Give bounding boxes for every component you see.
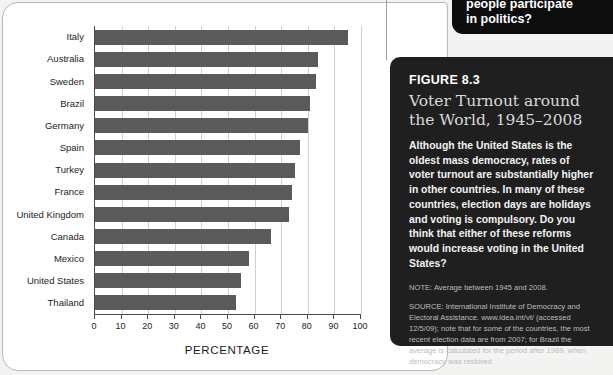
bar-series <box>95 26 361 314</box>
bar-row <box>95 292 361 314</box>
bar <box>95 96 310 111</box>
x-axis-tick-label: 40 <box>195 321 205 331</box>
x-axis-tick-label: 10 <box>116 321 126 331</box>
figure-note: NOTE: Average between 1945 and 2008. <box>409 282 596 293</box>
x-axis-tick-label: 80 <box>302 321 312 331</box>
top-callout-box: people participate in politics? <box>452 0 613 34</box>
bar-chart: ItalyAustraliaSwedenBrazilGermanySpainTu… <box>3 3 449 372</box>
page-background: ItalyAustraliaSwedenBrazilGermanySpainTu… <box>0 0 613 375</box>
y-axis-category-labels: ItalyAustraliaSwedenBrazilGermanySpainTu… <box>11 26 89 314</box>
figure-title: Voter Turnout around the World, 1945–200… <box>409 92 596 130</box>
bar-row <box>95 225 361 247</box>
bar <box>95 74 316 89</box>
bar <box>95 295 236 310</box>
bar-row <box>95 92 361 114</box>
bar-row <box>95 203 361 225</box>
x-axis-tick-label: 0 <box>91 321 96 331</box>
y-axis-label: Spain <box>11 137 89 159</box>
x-axis-tick-label: 30 <box>169 321 179 331</box>
bar-row <box>95 159 361 181</box>
x-axis-tick-label: 100 <box>352 321 367 331</box>
bar <box>95 251 249 266</box>
x-axis-tick <box>307 315 308 319</box>
bar <box>95 229 271 244</box>
x-axis-tick <box>94 315 95 319</box>
bar-row <box>95 115 361 137</box>
bar <box>95 207 289 222</box>
chart-card: ItalyAustraliaSwedenBrazilGermanySpainTu… <box>2 2 448 371</box>
figure-body-text: Although the United States is the oldest… <box>409 139 596 272</box>
x-axis-ticks: 0102030405060708090100 <box>94 315 360 320</box>
bar <box>95 140 300 155</box>
x-axis-tick <box>254 315 255 319</box>
x-axis-tick <box>200 315 201 319</box>
bar <box>95 52 318 67</box>
y-axis-label: France <box>11 181 89 203</box>
top-callout-line-2: in politics? <box>466 12 601 28</box>
bar-row <box>95 26 361 48</box>
figure-number: FIGURE 8.3 <box>409 73 596 87</box>
y-axis-label: Mexico <box>11 248 89 270</box>
x-axis-tick <box>121 315 122 319</box>
figure-caption-panel: FIGURE 8.3 Voter Turnout around the Worl… <box>390 57 613 346</box>
panel-divider <box>386 0 387 60</box>
bar-row <box>95 48 361 70</box>
y-axis-label: United States <box>11 270 89 292</box>
gridline <box>361 26 362 314</box>
y-axis-label: Sweden <box>11 70 89 92</box>
bar <box>95 163 295 178</box>
x-axis-tick <box>174 315 175 319</box>
x-axis-tick <box>227 315 228 319</box>
y-axis-label: Australia <box>11 48 89 70</box>
x-axis-tick-label: 20 <box>142 321 152 331</box>
y-axis-label: Thailand <box>11 292 89 314</box>
top-callout-line-1: people participate <box>466 0 601 12</box>
bar <box>95 185 292 200</box>
y-axis-label: Turkey <box>11 159 89 181</box>
plot-area <box>94 26 361 314</box>
x-axis-tick-label: 50 <box>222 321 232 331</box>
bar <box>95 118 308 133</box>
bar <box>95 30 348 45</box>
x-axis-tick <box>147 315 148 319</box>
x-axis-tick <box>333 315 334 319</box>
x-axis-title: PERCENTAGE <box>94 344 360 356</box>
y-axis-label: Italy <box>11 26 89 48</box>
bar <box>95 273 241 288</box>
x-axis-tick <box>280 315 281 319</box>
bar-row <box>95 270 361 292</box>
y-axis-label: United Kingdom <box>11 203 89 225</box>
x-axis-tick-label: 70 <box>275 321 285 331</box>
x-axis-tick <box>360 315 361 319</box>
bar-row <box>95 70 361 92</box>
x-axis-tick-label: 90 <box>328 321 338 331</box>
bar-row <box>95 248 361 270</box>
x-axis-tick-label: 60 <box>249 321 259 331</box>
y-axis-label: Canada <box>11 225 89 247</box>
bar-row <box>95 181 361 203</box>
y-axis-label: Brazil <box>11 92 89 114</box>
figure-source: SOURCE: International Institute of Democ… <box>409 301 596 367</box>
bar-row <box>95 137 361 159</box>
y-axis-label: Germany <box>11 115 89 137</box>
